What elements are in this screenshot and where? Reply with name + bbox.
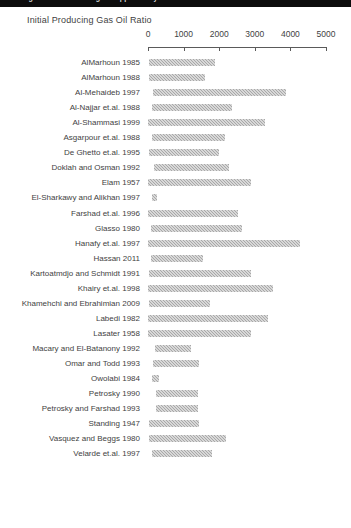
bar-row: Petrosky 1990 xyxy=(0,387,351,402)
bar-range[interactable] xyxy=(152,375,159,382)
bar-category-label: AlMarhoun 1988 xyxy=(81,72,140,83)
bar-range[interactable] xyxy=(154,164,228,171)
bar-category-label: De Ghetto et.al. 1995 xyxy=(64,147,140,158)
bar-row: Al-Mehaideb 1997 xyxy=(0,86,351,101)
bar-category-label: El-Sharkawy and Alikhan 1997 xyxy=(31,192,140,203)
bar-category-label: Glasso 1980 xyxy=(95,223,140,234)
bar-range[interactable] xyxy=(152,194,158,201)
bar-category-label: Velarde et.al. 1997 xyxy=(73,448,140,459)
x-axis-tick-mark-1000 xyxy=(184,47,185,51)
bar-row: Vasquez and Beggs 1980 xyxy=(0,432,351,447)
bar-range[interactable] xyxy=(151,255,203,262)
bar-row: Asgarpour et.al. 1988 xyxy=(0,131,351,146)
x-axis-tick-mark-3000 xyxy=(255,47,256,51)
bar-category-label: Standing 1947 xyxy=(88,418,140,429)
bar-category-label: Petrosky 1990 xyxy=(89,388,140,399)
bar-category-label: Farshad et.al. 1996 xyxy=(71,208,140,219)
bar-row: Khairy et.al. 1998 xyxy=(0,282,351,297)
bar-row: Al-Shammasi 1999 xyxy=(0,116,351,131)
bar-row: De Ghetto et.al. 1995 xyxy=(0,146,351,161)
bar-range[interactable] xyxy=(148,240,300,247)
bar-range[interactable] xyxy=(153,360,199,367)
bar-category-label: Omar and Todd 1993 xyxy=(65,358,140,369)
bar-category-label: Vasquez and Beggs 1980 xyxy=(49,433,140,444)
bar-range[interactable] xyxy=(155,345,191,352)
bar-row: Kartoatmdjo and Schmidt 1991 xyxy=(0,267,351,282)
bar-range[interactable] xyxy=(148,119,265,126)
window-title-bar-sliver: Building Gas Oil Ratio Range of Applicab… xyxy=(0,0,351,7)
bar-range[interactable] xyxy=(152,104,232,111)
bar-row: Hassan 2011 xyxy=(0,252,351,267)
bar-category-label: Khairy et.al. 1998 xyxy=(78,283,140,294)
bar-row: AlMarhoun 1985 xyxy=(0,56,351,71)
bar-category-label: Owolabi 1984 xyxy=(91,373,140,384)
bar-range[interactable] xyxy=(149,59,215,66)
bar-range[interactable] xyxy=(152,134,225,141)
bar-range[interactable] xyxy=(149,435,227,442)
bar-category-label: Doklah and Osman 1992 xyxy=(52,162,141,173)
bar-range[interactable] xyxy=(149,149,219,156)
bar-row: Farshad et.al. 1996 xyxy=(0,207,351,222)
bar-row: Macary and El-Batanony 1992 xyxy=(0,342,351,357)
bar-range[interactable] xyxy=(149,300,210,307)
bar-category-label: Asgarpour et.al. 1988 xyxy=(64,132,141,143)
bar-range[interactable] xyxy=(151,225,242,232)
bar-category-label: Macary and El-Batanony 1992 xyxy=(32,343,140,354)
bar-row: Velarde et.al. 1997 xyxy=(0,447,351,462)
bar-category-label: Khamehchi and Ebrahimian 2009 xyxy=(22,298,140,309)
bar-row: Lasater 1958 xyxy=(0,327,351,342)
bar-row: AlMarhoun 1988 xyxy=(0,71,351,86)
chart-container: Initial Producing Gas Oil Ratio 01000200… xyxy=(0,7,351,528)
bar-row: Owolabi 1984 xyxy=(0,372,351,387)
bar-row: El-Sharkawy and Alikhan 1997 xyxy=(0,191,351,206)
bar-category-label: Elam 1957 xyxy=(102,177,140,188)
bar-range[interactable] xyxy=(148,210,238,217)
bar-range[interactable] xyxy=(156,390,198,397)
bar-row: Doklah and Osman 1992 xyxy=(0,161,351,176)
bar-row: Khamehchi and Ebrahimian 2009 xyxy=(0,297,351,312)
bar-category-label: Al-Najjar et.al. 1988 xyxy=(70,102,140,113)
bar-category-label: Hanafy et.al. 1997 xyxy=(75,238,140,249)
bar-category-label: Lasater 1958 xyxy=(93,328,140,339)
bar-category-label: AlMarhoun 1985 xyxy=(81,57,140,68)
bar-row: Petrosky and Farshad 1993 xyxy=(0,402,351,417)
x-axis-tick-mark-2000 xyxy=(219,47,220,51)
bar-range[interactable] xyxy=(149,74,205,81)
window-title-text: Building Gas Oil Ratio Range of Applicab… xyxy=(4,0,247,1)
bar-category-label: Al-Mehaideb 1997 xyxy=(75,87,140,98)
bar-range[interactable] xyxy=(148,315,268,322)
bar-category-label: Kartoatmdjo and Schmidt 1991 xyxy=(30,268,140,279)
bar-range[interactable] xyxy=(149,270,251,277)
x-axis-tick-mark-4000 xyxy=(290,47,291,51)
bar-range[interactable] xyxy=(148,179,251,186)
bar-range[interactable] xyxy=(149,420,199,427)
x-axis-tick-mark-0 xyxy=(148,47,149,51)
bar-range[interactable] xyxy=(156,405,198,412)
bar-row: Labedi 1982 xyxy=(0,312,351,327)
plot-area: 010002000300040005000 AlMarhoun 1985AlMa… xyxy=(0,7,351,528)
bar-range[interactable] xyxy=(153,89,286,96)
bar-row: Al-Najjar et.al. 1988 xyxy=(0,101,351,116)
bar-category-label: Labedi 1982 xyxy=(96,313,140,324)
bar-range[interactable] xyxy=(152,450,213,457)
bar-category-label: Al-Shammasi 1999 xyxy=(72,117,140,128)
bar-row: Omar and Todd 1993 xyxy=(0,357,351,372)
bar-range[interactable] xyxy=(148,285,272,292)
x-axis-tick-mark-5000 xyxy=(326,47,327,51)
bar-category-label: Petrosky and Farshad 1993 xyxy=(42,403,140,414)
bar-row: Standing 1947 xyxy=(0,417,351,432)
bars-layer: AlMarhoun 1985AlMarhoun 1988Al-Mehaideb … xyxy=(0,7,351,528)
bar-category-label: Hassan 2011 xyxy=(93,253,140,264)
bar-row: Hanafy et.al. 1997 xyxy=(0,237,351,252)
bar-range[interactable] xyxy=(148,330,251,337)
bar-row: Elam 1957 xyxy=(0,176,351,191)
bar-row: Glasso 1980 xyxy=(0,222,351,237)
